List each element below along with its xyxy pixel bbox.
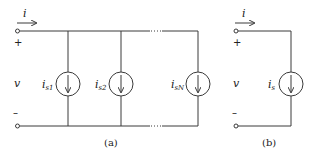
source-1-label: is1	[42, 78, 54, 92]
circuit-diagram: i + v – is1 is2	[0, 0, 319, 155]
terminal-top	[16, 29, 20, 33]
circuit-a: i + v – is1 is2	[13, 7, 210, 148]
plus-sign: +	[233, 37, 241, 48]
terminal-bottom	[16, 124, 20, 128]
current-source-n: isN	[171, 31, 210, 126]
source-s-label: is	[268, 78, 276, 92]
current-label: i	[242, 7, 246, 20]
circuit-b: i + v – is (b)	[232, 7, 303, 148]
terminal-top	[234, 29, 238, 33]
source-n-label: isN	[171, 78, 185, 92]
minus-sign: –	[232, 107, 237, 118]
current-source-1: is1	[42, 31, 80, 126]
caption-b: (b)	[262, 137, 276, 148]
current-source-s: is	[268, 31, 303, 126]
voltage-label: v	[233, 77, 240, 90]
current-label: i	[23, 7, 27, 20]
minus-sign: –	[13, 107, 18, 118]
plus-sign: +	[14, 37, 22, 48]
current-source-2: is2	[95, 31, 133, 126]
caption-a: (a)	[104, 137, 118, 148]
source-2-label: is2	[95, 78, 107, 92]
terminal-bottom	[234, 124, 238, 128]
voltage-label: v	[14, 77, 21, 90]
